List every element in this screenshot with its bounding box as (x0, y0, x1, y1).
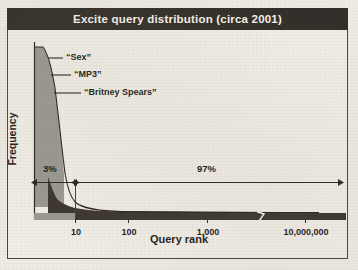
plot-area: “Sex” “MP3” “Britney Spears” 3% 97% 10 1… (7, 30, 348, 259)
tail-share-label: 97% (197, 163, 216, 174)
x-axis-band (34, 213, 346, 220)
figure-title: Excite query distribution (circa 2001) (73, 13, 282, 25)
x-axis-label: Query rank (0, 233, 358, 245)
callout-label-mp3: “MP3” (74, 69, 102, 79)
y-axis-label: Frequency (6, 109, 18, 169)
figure-title-bar: Excite query distribution (circa 2001) (7, 8, 348, 30)
head-share-label: 3% (43, 163, 57, 174)
chart-svg (7, 30, 348, 259)
head-axis-band (34, 213, 75, 220)
callout-label-britney-spears: “Britney Spears” (84, 87, 157, 97)
callout-label-sex: “Sex” (66, 52, 91, 62)
screenshot-root: Excite query distribution (circa 2001) (0, 0, 358, 270)
